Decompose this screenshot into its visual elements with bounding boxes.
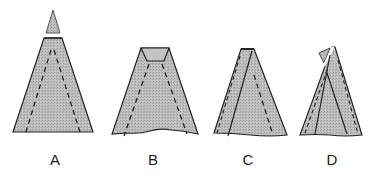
- panel-c-cone: [214, 49, 287, 136]
- panel-c-label: C: [243, 151, 254, 168]
- panel-d-cone: [300, 47, 362, 136]
- panel-d-shape: [300, 47, 362, 136]
- panel-a-cut-tip: [46, 10, 60, 33]
- panel-a-label: A: [50, 151, 60, 168]
- panel-a-shape: [13, 10, 93, 135]
- panel-b-label: B: [148, 151, 158, 168]
- panel-d-label: D: [327, 151, 338, 168]
- panel-a-cone: [13, 38, 93, 132]
- panel-b-shape: [112, 48, 198, 136]
- panel-c-shape: [214, 49, 287, 136]
